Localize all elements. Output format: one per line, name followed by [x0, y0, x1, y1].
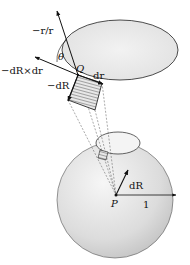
label-neg-dR-cross-dr: −dR×dr [1, 65, 43, 76]
label-theta: θ [58, 51, 64, 62]
label-dR: dR [129, 180, 143, 191]
label-radius: 1 [143, 199, 149, 210]
label-q: Q [76, 63, 84, 74]
solid-angle-diagram: −r/r θ −dR×dr Q dr −dR dR P 1 [0, 0, 190, 265]
projected-patch [98, 150, 108, 160]
label-dr: dr [93, 70, 104, 81]
label-neg-r-over-r: −r/r [32, 25, 54, 36]
label-neg-dR: −dR [47, 80, 70, 91]
label-p: P [110, 198, 118, 209]
point-q [77, 74, 79, 76]
